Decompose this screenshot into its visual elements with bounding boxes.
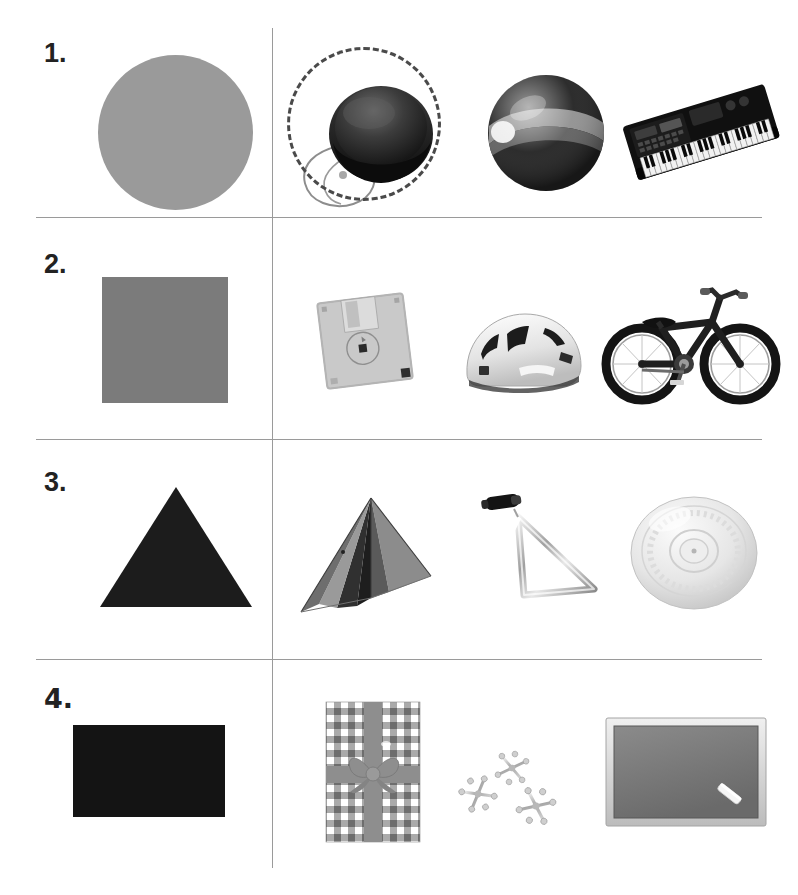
object-delta-kite[interactable]: kite <box>293 480 438 620</box>
answer-selection-ring <box>287 47 441 201</box>
row-separator-3 <box>36 659 762 660</box>
object-floppy-disk[interactable]: floppy disk <box>310 286 420 396</box>
shape-square <box>102 277 228 403</box>
object-frisbee[interactable]: frisbee <box>618 485 770 615</box>
worksheet-row-4: 4. <box>0 672 798 868</box>
worksheet-row-1: 1. <box>0 20 798 220</box>
reference-shape-cell-2 <box>36 238 272 438</box>
reference-shape-cell-4 <box>36 672 272 868</box>
object-yo-yo[interactable]: yo-yo <box>281 55 446 210</box>
object-beach-ball[interactable]: beach ball <box>481 68 611 198</box>
object-jacks[interactable]: jacks <box>450 750 585 840</box>
object-electronic-keyboard[interactable]: electronic keyboard <box>622 70 782 200</box>
shape-circle <box>98 55 253 210</box>
reference-shape-cell-3 <box>36 455 272 660</box>
worksheet-row-2: 2. <box>0 238 798 438</box>
object-bicycle[interactable]: bicycle <box>600 260 785 412</box>
object-gift-box[interactable]: wrapped gift <box>320 694 426 849</box>
shape-rectangle <box>73 725 225 817</box>
object-musical-triangle[interactable]: triangle instrument <box>462 485 602 613</box>
row-separator-1 <box>36 217 762 218</box>
object-bicycle-helmet-art[interactable]: bicycle helmet <box>457 298 589 402</box>
reference-shape-cell-1 <box>36 20 272 220</box>
worksheet-row-3: 3. <box>0 455 798 660</box>
shape-triangle <box>100 487 252 607</box>
object-chalkboard[interactable]: chalkboard <box>602 712 770 832</box>
row-separator-2 <box>36 439 762 440</box>
worksheet-page: 1. <box>0 0 798 895</box>
